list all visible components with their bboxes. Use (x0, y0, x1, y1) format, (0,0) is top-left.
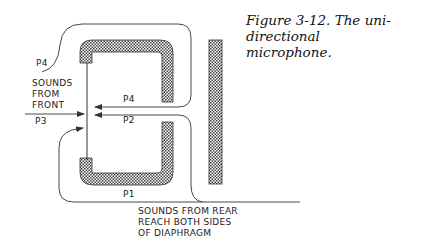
caption-line-2: microphone. (246, 44, 446, 60)
caption-line-1: Figure 3-12. The uni-directional (246, 12, 446, 44)
path-p2 (95, 115, 202, 202)
upper-housing (80, 40, 173, 102)
path-p1 (59, 128, 300, 202)
label-p4-top: P4 (36, 58, 48, 69)
label-rear-1: SOUNDS FROM REAR (138, 206, 238, 217)
figure-caption: Figure 3-12. The uni-directional microph… (246, 12, 446, 60)
label-p4-arrow: P4 (123, 94, 135, 105)
label-sounds-front-3: FRONT (32, 100, 64, 111)
label-sounds-front-2: FROM (32, 89, 59, 100)
label-sounds-front-1: SOUNDS (32, 78, 73, 89)
rear-plate (209, 40, 222, 184)
lower-housing (80, 122, 173, 185)
label-rear-2: REACH BOTH SIDES (138, 217, 232, 228)
label-p2: P2 (123, 115, 135, 126)
label-p1: P1 (123, 189, 135, 200)
label-p3: P3 (35, 116, 47, 127)
label-rear-3: OF DIAPHRAGM (138, 228, 211, 239)
